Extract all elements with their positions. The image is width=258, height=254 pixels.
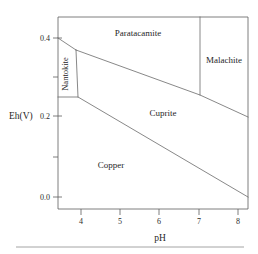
y-tick-label-0.4: 0.4 [40,34,50,43]
boundary-nantokite-right-edge [76,50,78,97]
x-tick-label-4: 4 [79,217,83,226]
y-axis-tick-labels: 0.4 0.2 0.0 [40,34,50,202]
boundary-nantokite-paratacamite-upper [58,38,76,50]
x-tick-label-7: 7 [197,217,201,226]
region-label-nantokite: Nantokite [60,57,70,91]
phase-region-labels: Paratacamite Malachite Cuprite Copper Na… [60,28,242,170]
region-label-copper: Copper [98,160,125,170]
eh-ph-phase-diagram-figure: 0.4 0.2 0.0 Eh(V) 4 5 6 7 8 pH [0,0,258,254]
x-axis-tick-labels: 4 5 6 7 8 [79,217,240,226]
phase-boundary-lines [58,17,248,197]
x-tick-label-8: 8 [236,217,240,226]
x-tick-label-6: 6 [157,217,161,226]
phase-diagram-canvas: 0.4 0.2 0.0 Eh(V) 4 5 6 7 8 pH [0,0,258,254]
region-label-paratacamite: Paratacamite [115,28,161,38]
region-label-cuprite: Cuprite [150,108,177,118]
region-label-malachite: Malachite [206,55,242,65]
y-tick-label-0.2: 0.2 [40,112,50,121]
y-axis-title: Eh(V) [9,111,33,122]
y-tick-label-0.0: 0.0 [40,193,50,202]
x-axis-title: pH [154,233,166,243]
x-tick-label-5: 5 [118,217,122,226]
x-axis-ticks [81,209,238,215]
